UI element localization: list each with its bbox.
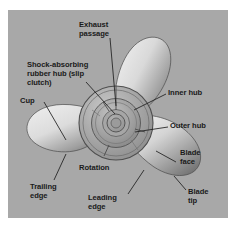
label-exhaust-passage: Exhaust passage <box>79 20 109 38</box>
label-cup: Cup <box>20 96 35 105</box>
label-inner-hub: Inner hub <box>168 88 202 97</box>
label-blade-face: Blade face <box>180 148 200 166</box>
label-rotation: Rotation <box>79 163 109 172</box>
label-leading-edge: Leading edge <box>88 193 117 211</box>
leader-trailing-edge <box>54 154 66 180</box>
leader-leading-edge <box>128 170 144 194</box>
hub-assembly <box>79 86 153 160</box>
diagram-panel: Exhaust passage Shock-absorbing rubber h… <box>8 10 228 218</box>
label-blade-tip: Blade tip <box>188 187 208 205</box>
propeller-diagram-figure: Exhaust passage Shock-absorbing rubber h… <box>0 0 240 225</box>
label-shock-absorbing-hub: Shock-absorbing rubber hub (slip clutch) <box>27 60 88 88</box>
label-outer-hub: Outer hub <box>170 121 206 130</box>
leader-blade-tip <box>174 176 186 190</box>
label-trailing-edge: Trailing edge <box>30 182 57 200</box>
